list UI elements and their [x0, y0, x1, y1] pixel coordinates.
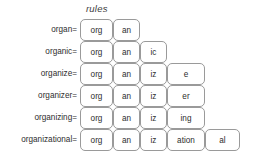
row-label: organic= — [0, 48, 77, 56]
rule-cell[interactable]: iz — [140, 63, 167, 85]
rule-cell[interactable]: an — [113, 129, 140, 151]
rule-cell[interactable]: org — [80, 63, 113, 85]
rule-cell[interactable]: an — [113, 107, 140, 129]
row-label: organizer= — [0, 92, 77, 100]
rule-cell[interactable]: ing — [167, 107, 205, 129]
row-label: organizational= — [0, 136, 77, 144]
rule-cell[interactable]: an — [113, 85, 140, 107]
rule-cell[interactable]: e — [167, 63, 205, 85]
rule-cell[interactable]: iz — [140, 129, 167, 151]
rule-cell[interactable]: er — [167, 85, 205, 107]
rule-cell[interactable]: org — [80, 85, 113, 107]
rule-cell[interactable]: an — [113, 63, 140, 85]
rule-cell[interactable]: org — [80, 107, 113, 129]
rule-cell[interactable]: an — [113, 19, 140, 41]
row-label: organize= — [0, 70, 77, 78]
rule-cell[interactable]: org — [80, 41, 113, 63]
rule-cell[interactable]: al — [205, 129, 240, 151]
rule-cell[interactable]: iz — [140, 107, 167, 129]
row-label: organizing= — [0, 114, 77, 122]
rule-cell[interactable]: an — [113, 41, 140, 63]
row-label: organ= — [0, 26, 77, 34]
rule-cell[interactable]: org — [80, 19, 113, 41]
rule-cell[interactable]: iz — [140, 85, 167, 107]
rule-cell[interactable]: ation — [167, 129, 205, 151]
rule-cell[interactable]: org — [80, 129, 113, 151]
diagram-title: rules — [86, 3, 108, 14]
rule-cell[interactable]: ic — [140, 41, 167, 63]
rules-diagram: rules organ=organorganic=organicorganize… — [0, 0, 255, 161]
